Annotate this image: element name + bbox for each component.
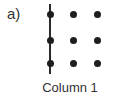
dot-grid: [0, 0, 135, 80]
dot-r3-c2: [70, 60, 77, 67]
dot-r2-c3: [94, 37, 101, 44]
dot-r1-c1: [47, 11, 54, 18]
column-caption: Column 1: [0, 80, 135, 96]
dot-r1-c3: [94, 11, 101, 18]
dot-r1-c2: [70, 11, 77, 18]
dot-r2-c1: [47, 37, 54, 44]
dot-r3-c3: [94, 60, 101, 67]
dot-r3-c1: [47, 60, 54, 67]
dot-r2-c2: [70, 37, 77, 44]
